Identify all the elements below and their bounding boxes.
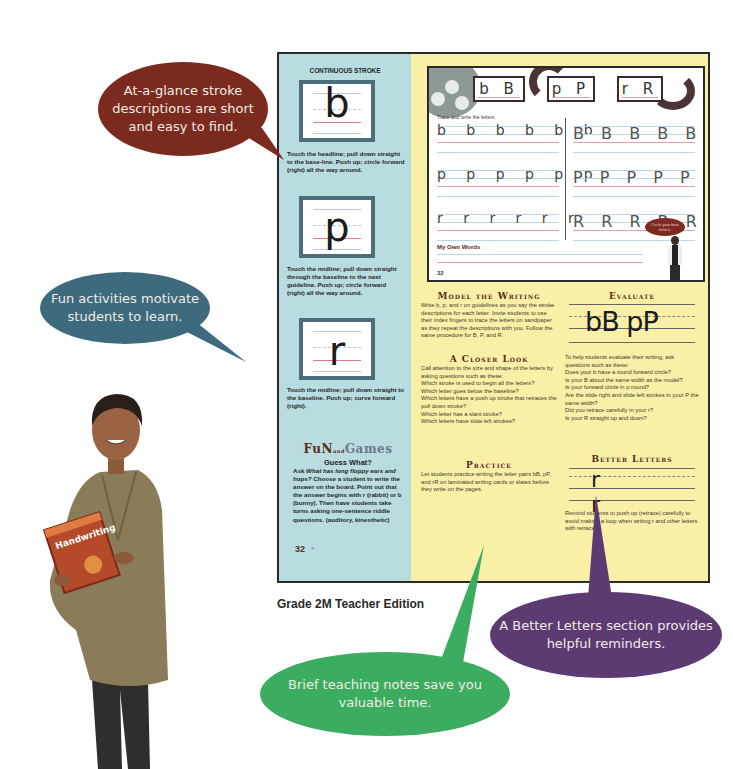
- practice-body: Let students practice writing the letter…: [421, 471, 559, 494]
- trace-instruction: Trace and write the letters.: [437, 114, 496, 120]
- trace-row-P: P P P P P: [573, 170, 695, 202]
- letter-card-p: p: [299, 196, 375, 258]
- closer-look-question: Which letter goes below the baseline?: [421, 388, 559, 396]
- callout-stroke-descriptions: At-a-glance stroke descriptions are shor…: [98, 62, 268, 156]
- trace-row-b: b b b b b b: [437, 126, 559, 158]
- letter-glyph: r: [303, 328, 371, 374]
- evaluate-question: Does your b have a round forward circle?: [565, 369, 699, 377]
- teacher-edition-page-spread: CONTINUOUS STROKE b Touch the headline; …: [277, 52, 710, 583]
- evaluate-heading: Evaluate: [565, 291, 699, 301]
- stroke-sidebar: CONTINUOUS STROKE b Touch the headline; …: [279, 54, 411, 581]
- closer-look-body: Call attention to the size and shape of …: [421, 365, 559, 426]
- letter-card-r: r: [299, 318, 375, 380]
- stroke-description-p: Touch the midline; pull down straight th…: [287, 265, 405, 297]
- edition-caption: Grade 2M Teacher Edition: [277, 597, 424, 611]
- circle-best-letters-bubble: Circle your best letters.: [645, 218, 685, 236]
- teacher-photo: Handwriting: [40, 380, 190, 769]
- page-number: 32●: [295, 544, 315, 554]
- model-writing-body: Write b, p, and r on guidelines as you s…: [421, 302, 559, 340]
- fun-and-games-title: FuNandGames: [289, 442, 407, 456]
- evaluate-question: Are the slide right and slide left strok…: [565, 392, 699, 407]
- continuous-stroke-title: CONTINUOUS STROKE: [279, 67, 411, 74]
- better-letters-body: Remind students to push up (retrace) car…: [565, 510, 699, 533]
- closer-look-question: Which letter has a slant stroke?: [421, 411, 559, 419]
- letter-glyph: p: [303, 204, 371, 250]
- closer-look-question: Which stroke is used to begin all the le…: [421, 380, 559, 388]
- trace-row-B: B B B B B: [573, 126, 695, 158]
- guess-what-title: Guess What?: [289, 458, 407, 467]
- evaluate-question: Is your forward circle in p round?: [565, 384, 699, 392]
- closer-look-question: Which letters have slide left strokes?: [421, 418, 559, 426]
- letter-glyph: b: [303, 80, 371, 126]
- evaluate-question: Did you retrace carefully in your r?: [565, 407, 699, 415]
- guess-what-body: Ask What has long floppy ears and hops? …: [293, 467, 405, 524]
- stroke-description-b: Touch the headline; pull down straight t…: [287, 150, 405, 174]
- better-letters-heading: Better Letters: [565, 454, 699, 464]
- evaluate-sample-letters: bB pP: [585, 306, 658, 337]
- letter-card-b: b: [299, 80, 375, 142]
- letter-pair-box: p P: [547, 76, 595, 102]
- student-workbook-page: b B p P r R Trace and write the letters.…: [427, 66, 705, 282]
- evaluate-body: To help students evaluate their writing,…: [565, 354, 699, 422]
- letter-pair-box: r R: [617, 76, 663, 102]
- workbook-page-number: 32: [437, 270, 444, 276]
- practice-heading: Practice: [419, 460, 559, 470]
- stroke-description-r: Touch the midline; pull down straight to…: [287, 386, 405, 410]
- model-writing-heading: Model the Writing: [419, 291, 559, 301]
- better-letters-sample-lines: r r: [569, 468, 695, 498]
- callout-fun-activities: Fun activities motivate students to lear…: [40, 272, 210, 344]
- closer-look-heading: A Closer Look: [419, 354, 559, 364]
- callout-teaching-notes: Brief teaching notes save you valuable t…: [260, 652, 510, 736]
- evaluate-sample-lines: bB pP: [569, 304, 695, 346]
- closer-look-question: Which letters have a push up stroke that…: [421, 395, 559, 410]
- evaluate-question: Is your R straight up and down?: [565, 415, 699, 423]
- callout-better-letters: A Better Letters section provides helpfu…: [490, 592, 722, 678]
- evaluate-question: Is your B about the same width as the mo…: [565, 377, 699, 385]
- trace-row-p: p p p p p p: [437, 170, 559, 202]
- trace-row-r: r r r r r r: [437, 214, 559, 246]
- kid-figure: [667, 236, 683, 282]
- my-own-words-label: My Own Words: [437, 244, 480, 250]
- letter-pair-box: b B: [473, 76, 525, 102]
